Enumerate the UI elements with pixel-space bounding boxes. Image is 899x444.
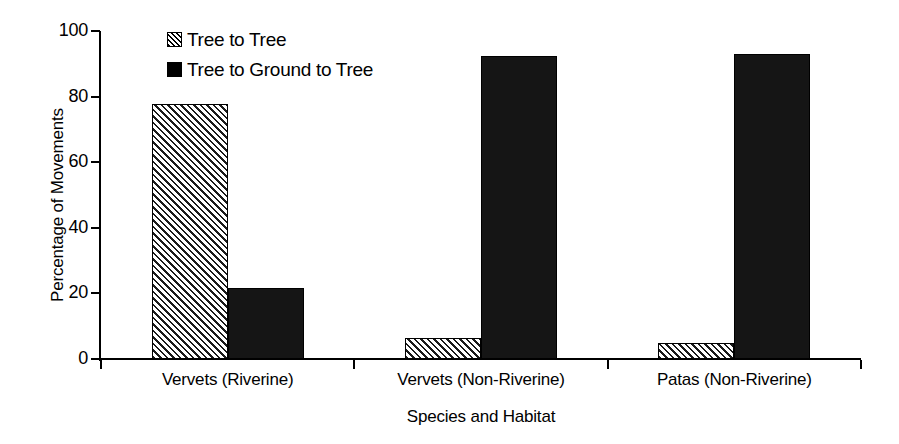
y-axis-tick-label: 0 <box>42 349 88 367</box>
bar-chart-figure: Percentage of Movements 020406080100 Ver… <box>0 0 899 444</box>
legend-item: Tree to Ground to Tree <box>167 54 373 84</box>
filled-square-icon <box>167 62 182 77</box>
bar <box>734 54 810 359</box>
x-axis-tick-mark <box>860 360 862 369</box>
legend: Tree to TreeTree to Ground to Tree <box>167 24 373 84</box>
bar <box>152 104 228 359</box>
y-axis-tick-label: 20 <box>42 283 88 301</box>
bar <box>658 343 734 359</box>
y-axis-tick-label: 60 <box>42 152 88 170</box>
bar <box>405 338 481 359</box>
legend-item: Tree to Tree <box>167 24 373 54</box>
x-axis-tick-mark <box>100 360 102 369</box>
y-axis-tick-label: 40 <box>42 218 88 236</box>
y-axis-tick-label: 80 <box>42 87 88 105</box>
legend-item-label: Tree to Tree <box>187 30 286 49</box>
x-axis-category-label: Vervets (Non-Riverine) <box>354 370 607 390</box>
x-axis-title: Species and Habitat <box>101 407 861 427</box>
x-axis-category-label: Patas (Non-Riverine) <box>608 370 861 390</box>
bar <box>481 56 557 359</box>
x-axis-tick-mark <box>353 360 355 369</box>
y-axis-tick-label: 100 <box>42 21 88 39</box>
x-axis-category-label: Vervets (Riverine) <box>101 370 354 390</box>
hatched-square-icon <box>167 32 182 47</box>
bar <box>228 288 304 359</box>
legend-item-label: Tree to Ground to Tree <box>187 60 373 79</box>
x-axis-tick-mark <box>607 360 609 369</box>
